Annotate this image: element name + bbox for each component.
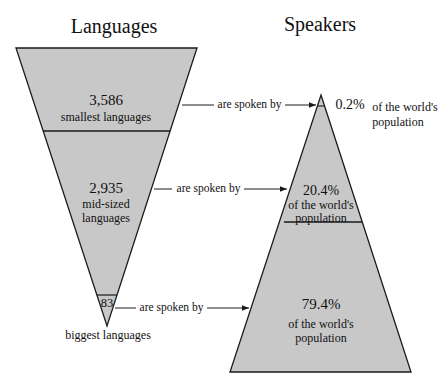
speakers-top-percent: 0.2% (330, 98, 370, 112)
smallest-languages-label: smallest languages (56, 111, 156, 123)
connector-label-1: are spoken by (214, 99, 285, 111)
smallest-languages-count: 3,586 (76, 93, 136, 108)
languages-title: Languages (64, 16, 164, 36)
mid-languages-label-2: languages (66, 212, 146, 224)
mid-languages-label-1: mid-sized (66, 198, 146, 210)
speakers-bottom-label-1: of the world's (281, 318, 361, 330)
biggest-languages-count: 83 (96, 297, 118, 310)
mid-languages-count: 2,935 (76, 181, 136, 196)
connector-label-3: are spoken by (136, 302, 207, 314)
speakers-bottom-label-2: population (281, 332, 361, 344)
biggest-languages-label: biggest languages (58, 329, 158, 341)
speakers-title: Speakers (270, 14, 370, 34)
speakers-bottom-percent: 79.4% (296, 297, 346, 312)
connector-label-2: are spoken by (173, 183, 244, 195)
speakers-mid-percent: 20.4% (296, 184, 346, 198)
speakers-top-label-1: of the world's (372, 101, 438, 113)
speakers-top-label-2: population (370, 116, 426, 128)
speakers-mid-label-1: of the world's (281, 199, 361, 211)
speakers-mid-label-2: population (281, 212, 361, 224)
